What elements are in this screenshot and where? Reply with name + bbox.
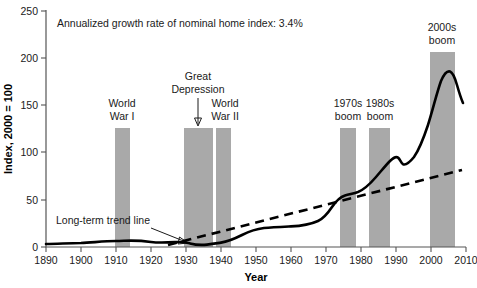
chart-container: 0 50 100 150 200 250 1890 1900 1910 19 <box>0 0 477 288</box>
y-tick-label-50: 50 <box>26 194 38 206</box>
label-great-depression-line2: Depression <box>171 83 224 95</box>
x-tick-label-2010: 2010 <box>454 254 477 266</box>
label-world-war-ii-line1: World <box>211 97 238 109</box>
label-2000s-boom-line1: 2000s <box>428 21 457 33</box>
x-tick-label-2000: 2000 <box>419 254 443 266</box>
y-tick-label-150: 150 <box>20 99 38 111</box>
band-2000s-boom <box>430 52 455 247</box>
label-world-war-i-line1: World <box>108 97 135 109</box>
growth-rate-note: Annualized growth rate of nominal home i… <box>57 17 303 29</box>
x-tick-label-1920: 1920 <box>139 254 163 266</box>
y-tick-label-200: 200 <box>20 52 38 64</box>
band-great-depression <box>184 128 213 247</box>
y-tick-label-250: 250 <box>20 5 38 17</box>
label-world-war-i-line2: War I <box>110 110 135 122</box>
x-tick-label-1980: 1980 <box>349 254 373 266</box>
x-tick-label-1890: 1890 <box>34 254 58 266</box>
label-1970s-boom-line1: 1970s <box>334 97 363 109</box>
label-1980s-boom-line1: 1980s <box>366 97 395 109</box>
y-tick-label-100: 100 <box>20 146 38 158</box>
band-1970s-boom <box>340 128 356 247</box>
band-world-war-i <box>115 128 130 247</box>
x-tick-label-1910: 1910 <box>104 254 128 266</box>
trend-callout-label: Long-term trend line <box>56 214 150 226</box>
label-great-depression-line1: Great <box>185 70 211 82</box>
y-axis-title: Index, 2000 = 100 <box>2 84 14 174</box>
label-world-war-ii-line2: War II <box>211 110 239 122</box>
label-1980s-boom-line2: boom <box>367 110 394 122</box>
x-axis-title: Year <box>244 271 268 283</box>
y-tick-label-0: 0 <box>32 241 38 253</box>
x-tick-label-1950: 1950 <box>244 254 268 266</box>
x-tick-label-1930: 1930 <box>174 254 198 266</box>
home-price-index-chart: 0 50 100 150 200 250 1890 1900 1910 19 <box>0 0 477 288</box>
x-tick-label-1960: 1960 <box>279 254 303 266</box>
band-1980s-boom <box>369 128 390 247</box>
chart-background <box>0 0 477 288</box>
x-tick-label-1900: 1900 <box>69 254 93 266</box>
label-2000s-boom-line2: boom <box>429 34 456 46</box>
x-tick-label-1990: 1990 <box>384 254 408 266</box>
label-1970s-boom-line2: boom <box>335 110 362 122</box>
x-tick-label-1970: 1970 <box>314 254 338 266</box>
x-tick-label-1940: 1940 <box>209 254 233 266</box>
